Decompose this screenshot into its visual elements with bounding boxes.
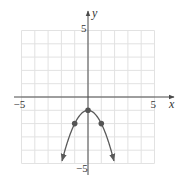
data-point: [99, 121, 105, 127]
y-axis-label: y: [91, 6, 98, 20]
x-tick-label: −5: [14, 98, 26, 110]
data-point: [72, 121, 78, 127]
x-tick-label: 5: [151, 98, 157, 110]
x-axis-label: x: [168, 97, 175, 111]
coordinate-plane: −555−5 x y: [0, 0, 183, 176]
data-point: [85, 108, 91, 114]
y-tick-label: 5: [81, 22, 87, 34]
y-tick-label: −5: [76, 162, 88, 174]
